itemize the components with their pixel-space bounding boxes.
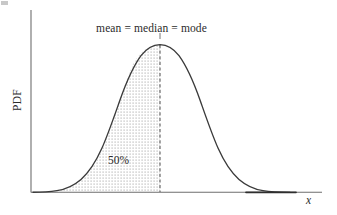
pdf-normal-distribution-figure: mean = median = mode 50% PDF x	[0, 0, 337, 215]
plot-axes	[31, 10, 322, 193]
y-axis-label: PDF	[11, 76, 23, 124]
normal-distribution-curve	[33, 45, 296, 193]
shaded-area-50-percent	[31, 45, 160, 193]
mean-median-mode-label: mean = median = mode	[0, 22, 337, 34]
shaded-area-percent-label: 50%	[108, 154, 129, 166]
x-axis-label: x	[306, 194, 311, 206]
mean-median-mode-text: mean = median = mode	[96, 22, 207, 34]
